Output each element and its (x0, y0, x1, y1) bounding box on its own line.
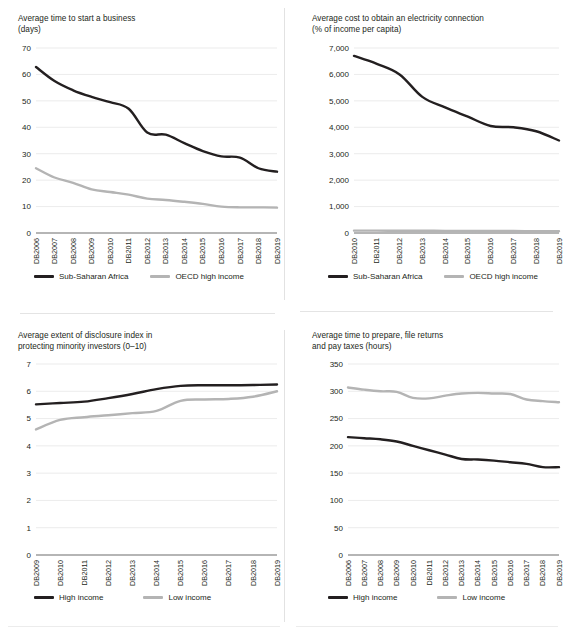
legend-swatch-light (437, 596, 457, 599)
y-axis-tick-label: 6,000 (329, 70, 350, 79)
plot-area-time-to-pay-taxes: 050100150200250300350DB2006DB2007DB2008D… (304, 317, 565, 617)
y-axis-tick-label: 0 (27, 551, 32, 560)
x-axis-tick-label: DB2011 (372, 238, 381, 263)
series-line-sub-saharan-africa (36, 67, 277, 172)
y-axis-tick-label: 0 (339, 551, 344, 560)
legend-item-sub-saharan-africa: Sub-Saharan Africa (34, 272, 128, 281)
y-axis-tick-label: 70 (22, 44, 31, 53)
plot-area-time-to-start-business: 010203040506070DB2006DB2007DB2008DB2009D… (0, 0, 290, 300)
y-axis-tick-label: 2 (27, 496, 32, 505)
series-line-low-income (348, 387, 559, 402)
x-axis-tick-label: DB2013 (161, 238, 170, 264)
y-axis-tick-label: 1,000 (329, 202, 350, 211)
y-axis-tick-label: 0 (27, 229, 32, 238)
legend-item-oecd-high-income: OECD high income (444, 272, 537, 281)
y-axis-tick-label: 100 (330, 496, 344, 505)
legend-label: High income (59, 593, 103, 602)
x-axis-tick-label: DB2011 (124, 238, 133, 263)
y-axis-tick-label: 0 (345, 229, 350, 238)
legend-swatch-dark (328, 596, 348, 599)
x-axis-tick-label: DB2010 (409, 560, 418, 586)
x-axis-tick-label: DB2015 (463, 238, 472, 264)
legend-label: Sub-Saharan Africa (353, 272, 422, 281)
legend-label: OECD high income (469, 272, 537, 281)
series-line-sub-saharan-africa (354, 56, 559, 141)
legend-item-low-income: Low income (437, 593, 505, 602)
x-axis-tick-label: DB2012 (395, 238, 404, 264)
x-axis-tick-label: DB2013 (457, 560, 466, 586)
y-axis-tick-label: 150 (330, 469, 344, 478)
legend-item-sub-saharan-africa: Sub-Saharan Africa (328, 272, 422, 281)
legend-cost-electricity-connection: Sub-Saharan Africa OECD high income (328, 272, 538, 281)
x-axis-tick-label: DB2009 (87, 238, 96, 264)
series-line-high-income (348, 437, 559, 467)
x-axis-tick-label: DB2007 (360, 560, 369, 586)
x-axis-tick-label: DB2014 (180, 238, 189, 264)
x-axis-tick-label: DB2017 (224, 560, 233, 586)
legend-time-to-start-business: Sub-Saharan Africa OECD high income (34, 272, 244, 281)
x-axis-tick-label: DB2010 (106, 238, 115, 264)
x-axis-tick-label: DB2018 (249, 560, 258, 586)
y-axis-tick-label: 30 (22, 150, 31, 159)
y-axis-tick-label: 50 (22, 97, 31, 106)
x-axis-tick-label: DB2016 (200, 560, 209, 586)
x-axis-tick-label: DB2018 (254, 238, 263, 264)
x-axis-tick-label: DB2017 (522, 560, 531, 586)
x-axis-tick-label: DB2006 (32, 238, 41, 264)
y-axis-tick-label: 4 (27, 442, 32, 451)
legend-item-high-income: High income (328, 593, 397, 602)
legend-label: High income (353, 593, 397, 602)
legend-time-to-pay-taxes: High income Low income (328, 593, 505, 602)
x-axis-tick-label: DB2011 (425, 560, 434, 585)
x-axis-tick-label: DB2012 (104, 560, 113, 586)
x-axis-tick-label: DB2015 (490, 560, 499, 586)
legend-swatch-dark (34, 275, 54, 278)
y-axis-tick-label: 5,000 (329, 97, 350, 106)
x-axis-tick-label: DB2011 (80, 560, 89, 585)
x-axis-tick-label: DB2016 (486, 238, 495, 264)
y-axis-tick-label: 7 (27, 360, 32, 369)
x-axis-tick-label: DB2006 (344, 560, 353, 586)
chart-panel-time-to-start-business: Average time to start a business (days) … (0, 0, 290, 317)
chart-panel-time-to-pay-taxes: Average time to prepare, file returns an… (290, 317, 565, 633)
legend-swatch-light (444, 275, 464, 278)
x-axis-tick-label: DB2009 (32, 560, 41, 586)
series-line-high-income (36, 384, 277, 404)
y-axis-tick-label: 6 (27, 387, 32, 396)
x-axis-tick-label: DB2013 (128, 560, 137, 586)
legend-swatch-dark (328, 275, 348, 278)
x-axis-tick-label: DB2010 (56, 560, 65, 586)
y-axis-tick-label: 60 (22, 70, 31, 79)
y-axis-tick-label: 40 (22, 123, 31, 132)
x-axis-tick-label: DB2019 (555, 238, 564, 264)
x-axis-tick-label: DB2018 (538, 560, 547, 586)
legend-item-high-income: High income (34, 593, 103, 602)
y-axis-tick-label: 20 (22, 176, 31, 185)
y-axis-tick-label: 250 (330, 414, 344, 423)
x-axis-tick-label: DB2008 (376, 560, 385, 586)
x-axis-tick-label: DB2019 (273, 238, 282, 264)
series-line-oecd-high-income (36, 168, 277, 207)
x-axis-tick-label: DB2013 (418, 238, 427, 264)
x-axis-tick-label: DB2014 (152, 560, 161, 586)
x-axis-tick-label: DB2014 (441, 238, 450, 264)
legend-swatch-dark (34, 596, 54, 599)
legend-swatch-light (150, 275, 170, 278)
chart-grid: Average time to start a business (days) … (0, 0, 565, 633)
chart-panel-disclosure-index: Average extent of disclosure index in pr… (0, 317, 290, 633)
x-axis-tick-label: DB2009 (392, 560, 401, 586)
y-axis-tick-label: 5 (27, 414, 32, 423)
legend-label: Low income (168, 593, 211, 602)
y-axis-tick-label: 4,000 (329, 123, 350, 132)
legend-label: Sub-Saharan Africa (59, 272, 128, 281)
x-axis-tick-label: DB2019 (555, 560, 564, 586)
x-axis-tick-label: DB2010 (350, 238, 359, 264)
x-axis-tick-label: DB2017 (509, 238, 518, 264)
series-line-oecd-high-income (354, 231, 559, 232)
legend-swatch-light (143, 596, 163, 599)
y-axis-tick-label: 10 (22, 202, 31, 211)
plot-area-disclosure-index: 01234567DB2009DB2010DB2011DB2012DB2013DB… (0, 317, 290, 617)
y-axis-tick-label: 300 (330, 387, 344, 396)
x-axis-tick-label: DB2016 (217, 238, 226, 264)
plot-area-cost-electricity-connection: 01,0002,0003,0004,0005,0006,0007,000DB20… (304, 0, 565, 300)
